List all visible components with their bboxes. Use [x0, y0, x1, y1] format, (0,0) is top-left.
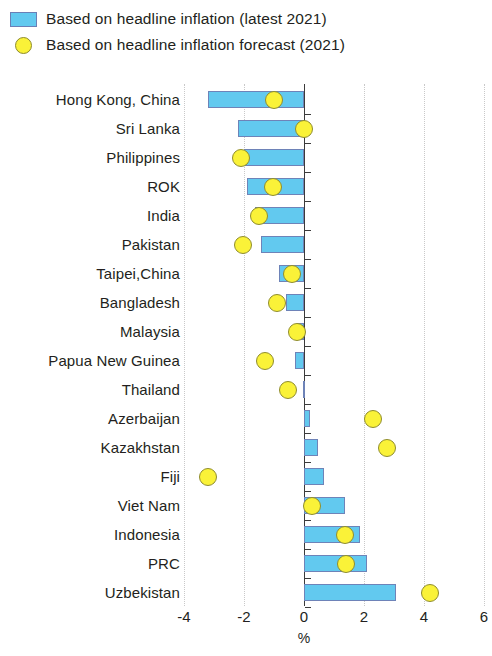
x-tick-label: 2: [344, 608, 384, 625]
chart-row: Hong Kong, China: [0, 85, 492, 114]
chart-row: Bangladesh: [0, 288, 492, 317]
category-label: Pakistan: [122, 230, 180, 259]
chart-legend: Based on headline inflation (latest 2021…: [0, 0, 492, 58]
bar: [295, 352, 304, 369]
chart-row: Azerbaijan: [0, 404, 492, 433]
forecast-marker: [336, 526, 354, 544]
x-tick-label: 6: [464, 608, 492, 625]
chart-row: Philippines: [0, 143, 492, 172]
forecast-marker: [364, 410, 382, 428]
bar: [303, 381, 305, 398]
category-label: Viet Nam: [118, 491, 180, 520]
bar: [304, 468, 324, 485]
forecast-marker: [265, 91, 283, 109]
forecast-marker: [256, 352, 274, 370]
category-label: Hong Kong, China: [56, 85, 180, 114]
chart-row: Thailand: [0, 375, 492, 404]
forecast-marker: [288, 323, 306, 341]
chart-row: India: [0, 201, 492, 230]
category-label: Taipei,China: [96, 259, 180, 288]
chart-row: Taipei,China: [0, 259, 492, 288]
bar: [304, 584, 396, 601]
circle-marker-icon: [0, 37, 46, 54]
forecast-marker: [303, 497, 321, 515]
forecast-marker: [234, 236, 252, 254]
bar-swatch-icon: [0, 12, 46, 27]
category-label: India: [147, 201, 180, 230]
chart-row: Papua New Guinea: [0, 346, 492, 375]
bar: [304, 555, 367, 572]
x-axis-title: %: [284, 630, 324, 646]
forecast-marker: [279, 381, 297, 399]
category-label: Indonesia: [114, 520, 180, 549]
forecast-marker: [264, 178, 282, 196]
bar: [286, 294, 304, 311]
bar: [304, 439, 318, 456]
forecast-marker: [421, 584, 439, 602]
bar: [208, 91, 304, 108]
forecast-marker: [268, 294, 286, 312]
legend-item-bar: Based on headline inflation (latest 2021…: [0, 6, 492, 32]
chart-row: Malaysia: [0, 317, 492, 346]
category-label: ROK: [147, 172, 180, 201]
chart-row: Fiji: [0, 462, 492, 491]
category-label: Thailand: [122, 375, 180, 404]
x-axis: -4-20246%: [0, 608, 492, 656]
chart-row: Pakistan: [0, 230, 492, 259]
category-label: Bangladesh: [100, 288, 180, 317]
forecast-marker: [337, 555, 355, 573]
forecast-marker: [378, 439, 396, 457]
plot-area: Hong Kong, ChinaSri LankaPhilippinesROKI…: [0, 84, 492, 606]
x-tick-label: 4: [404, 608, 444, 625]
x-tick-label: -2: [224, 608, 264, 625]
chart-root: Based on headline inflation (latest 2021…: [0, 0, 492, 656]
forecast-marker: [295, 120, 313, 138]
category-label: Sri Lanka: [116, 114, 180, 143]
chart-row: Sri Lanka: [0, 114, 492, 143]
chart-row: Indonesia: [0, 520, 492, 549]
category-label: Fiji: [160, 462, 180, 491]
bar: [244, 149, 304, 166]
x-tick-label: 0: [284, 608, 324, 625]
bar: [261, 236, 305, 253]
category-label: Malaysia: [120, 317, 180, 346]
legend-item-forecast: Based on headline inflation forecast (20…: [0, 32, 492, 58]
bar-rows: Hong Kong, ChinaSri LankaPhilippinesROKI…: [0, 84, 492, 606]
chart-row: Kazakhstan: [0, 433, 492, 462]
forecast-marker: [283, 265, 301, 283]
chart-row: PRC: [0, 549, 492, 578]
legend-label-forecast: Based on headline inflation forecast (20…: [46, 36, 345, 54]
chart-row: ROK: [0, 172, 492, 201]
category-label: Azerbaijan: [108, 404, 180, 433]
category-label: Papua New Guinea: [48, 346, 180, 375]
chart-row: Viet Nam: [0, 491, 492, 520]
category-label: Kazakhstan: [101, 433, 180, 462]
forecast-marker: [232, 149, 250, 167]
x-tick-label: -4: [164, 608, 204, 625]
chart-row: Uzbekistan: [0, 578, 492, 607]
category-label: Uzbekistan: [105, 578, 180, 607]
legend-label-bar: Based on headline inflation (latest 2021…: [46, 10, 327, 28]
category-label: PRC: [148, 549, 180, 578]
bar: [304, 410, 310, 427]
forecast-marker: [250, 207, 268, 225]
forecast-marker: [199, 468, 217, 486]
category-label: Philippines: [106, 143, 180, 172]
